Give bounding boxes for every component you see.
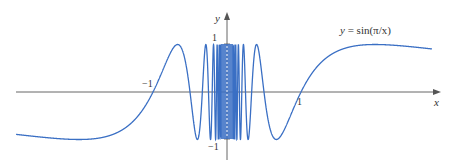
y-axis-arrow-icon: [224, 12, 230, 20]
y-tick-label-1: 1: [212, 32, 217, 43]
x-tick-label-neg1: −1: [142, 78, 153, 89]
y-axis-label: y: [214, 12, 220, 24]
x-axis-label: x: [433, 96, 439, 108]
x-axis-arrow-icon: [433, 89, 441, 95]
y-tick-label-neg1: −1: [208, 141, 219, 152]
equation-annotation: y = sin(π/x): [339, 24, 391, 37]
function-plot: y x −1 1 1 −1 y = sin(π/x): [0, 0, 449, 167]
x-tick-label-1: 1: [297, 96, 302, 107]
